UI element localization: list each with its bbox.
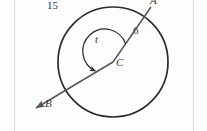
arc-length-label: 15 [47,0,58,11]
figure-drawing [0,0,207,131]
geometry-figure: 15 6 t C B A [0,0,207,131]
center-point-label: C [116,57,123,68]
point-b-label: B [45,98,52,109]
central-angle-label: t [95,34,98,45]
point-a-label: A [150,0,157,6]
radius-length-label: 6 [133,25,139,36]
